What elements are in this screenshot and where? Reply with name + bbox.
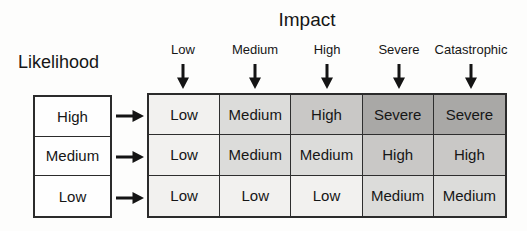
impact-header-high: High <box>314 42 341 57</box>
likelihood-table: High Medium Low <box>33 95 112 218</box>
impact-header-low: Low <box>171 42 195 57</box>
likelihood-axis-title: Likelihood <box>18 52 99 73</box>
matrix-cell: Low <box>220 176 291 216</box>
matrix-cell: Medium <box>434 176 505 216</box>
matrix-cell: High <box>434 135 505 175</box>
down-arrow-icon <box>320 64 334 89</box>
down-arrow-icon <box>176 64 190 89</box>
risk-matrix-diagram: Impact Likelihood Low Medium High Severe… <box>0 0 527 231</box>
matrix-cell: Low <box>149 95 220 135</box>
likelihood-cell-medium: Medium <box>35 137 110 177</box>
impact-header-severe: Severe <box>378 42 419 57</box>
matrix-cell: Low <box>149 176 220 216</box>
right-arrow-icon <box>116 150 144 164</box>
down-arrow-icon <box>392 64 406 89</box>
likelihood-cell-low: Low <box>35 176 110 216</box>
matrix-cell: Medium <box>291 135 362 175</box>
likelihood-cell-high: High <box>35 97 110 137</box>
matrix-cell: Low <box>291 176 362 216</box>
matrix-cell: Medium <box>363 176 434 216</box>
down-arrow-icon <box>464 64 478 89</box>
down-arrow-icon <box>248 64 262 89</box>
matrix-cell: Severe <box>363 95 434 135</box>
matrix-cell: Low <box>149 135 220 175</box>
matrix-cell: Severe <box>434 95 505 135</box>
impact-header-catastrophic: Catastrophic <box>435 42 508 57</box>
matrix-cell: High <box>291 95 362 135</box>
risk-matrix-grid: Low Medium High Severe Severe Low Medium… <box>147 93 507 218</box>
right-arrow-icon <box>116 109 144 123</box>
matrix-cell: Medium <box>220 95 291 135</box>
matrix-cell: Medium <box>220 135 291 175</box>
matrix-cell: High <box>363 135 434 175</box>
impact-axis-title: Impact <box>278 9 335 31</box>
right-arrow-icon <box>116 191 144 205</box>
impact-header-medium: Medium <box>232 42 278 57</box>
